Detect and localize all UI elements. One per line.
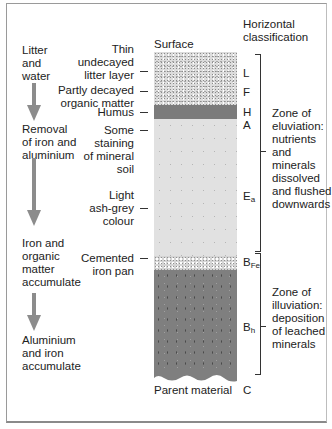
desc-humus: Humus <box>98 106 134 119</box>
stage-aluminium-iron-accumulate: Aluminium and iron accumulate <box>22 334 81 373</box>
layer-eluviated <box>154 119 237 256</box>
illuviation-bracket <box>255 253 261 375</box>
desc-staining-mineral-soil: Some staining of mineral soil <box>84 124 135 176</box>
horizon-L: L <box>243 67 249 80</box>
stage-iron-organic-accumulate: Iron and organic matter accumulate <box>22 237 81 289</box>
zone-illuviation-label: Zone of illuviation: deposition of leach… <box>272 286 325 351</box>
down-arrow-icon <box>31 293 37 333</box>
stage-removal-iron-aluminium: Removal of iron and aluminium <box>22 123 76 162</box>
horizon-Ea-main: E <box>243 190 251 202</box>
horizon-Ea: Ea <box>243 190 255 206</box>
surface-label: Surface <box>154 38 194 51</box>
leader-line <box>140 71 148 72</box>
horizon-A: A <box>243 119 251 132</box>
horizon-F: F <box>243 86 250 99</box>
leader-line <box>140 112 148 113</box>
horizon-H: H <box>243 106 251 119</box>
eluviation-bracket <box>255 54 261 252</box>
horizon-BFe-main: B <box>243 256 251 268</box>
layer-litter <box>154 52 237 105</box>
desc-iron-pan: Cemented iron pan <box>81 252 134 278</box>
horizon-heading: Horizontal classification <box>243 18 308 44</box>
leader-line <box>140 258 148 259</box>
horizon-Bh-main: B <box>243 321 251 333</box>
desc-litter-layer: Thin undecayed litter layer <box>78 43 134 82</box>
layer-illuviated <box>154 270 237 374</box>
leader-line <box>140 208 148 209</box>
leader-line <box>140 130 148 131</box>
parent-material-label: Parent material <box>154 384 232 397</box>
stage-litter-and-water: Litter and water <box>22 44 50 83</box>
horizon-Bh: Bh <box>243 321 255 337</box>
layer-iron-pan <box>154 256 237 270</box>
layer-humus <box>154 105 237 119</box>
down-arrow-icon <box>31 158 37 228</box>
down-arrow-icon <box>31 83 37 121</box>
horizon-C: C <box>243 384 251 397</box>
leader-line <box>140 91 148 92</box>
zone-eluviation-label: Zone of eluviation: nutrients and minera… <box>272 107 331 211</box>
desc-ash-grey: Light ash-grey colour <box>89 189 134 228</box>
wavy-bottom-edge <box>154 371 237 383</box>
